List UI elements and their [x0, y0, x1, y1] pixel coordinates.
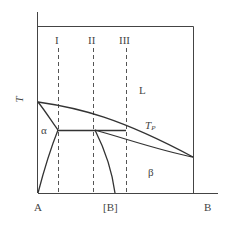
peritectic-temperature-label: TP [145, 120, 155, 132]
beta-region-label: β [148, 167, 154, 178]
component-b-label: B [204, 202, 211, 213]
liquid-region-label: L [139, 85, 146, 96]
component-a-label: A [34, 202, 42, 213]
alpha-region-label: α [41, 125, 47, 136]
phase-diagram [0, 0, 231, 226]
composition-label-II: II [88, 35, 95, 46]
alpha-solvus [38, 130, 58, 193]
temperature-axis-label: T [14, 96, 25, 102]
composition-label-I: I [55, 35, 59, 46]
beta-solidus [95, 130, 193, 157]
peritectic-label-sub: P [151, 124, 155, 132]
composition-label-III: III [119, 35, 130, 46]
composition-b-label: [B] [103, 202, 118, 213]
beta-solvus [95, 130, 115, 193]
liquidus-curve [38, 102, 193, 157]
